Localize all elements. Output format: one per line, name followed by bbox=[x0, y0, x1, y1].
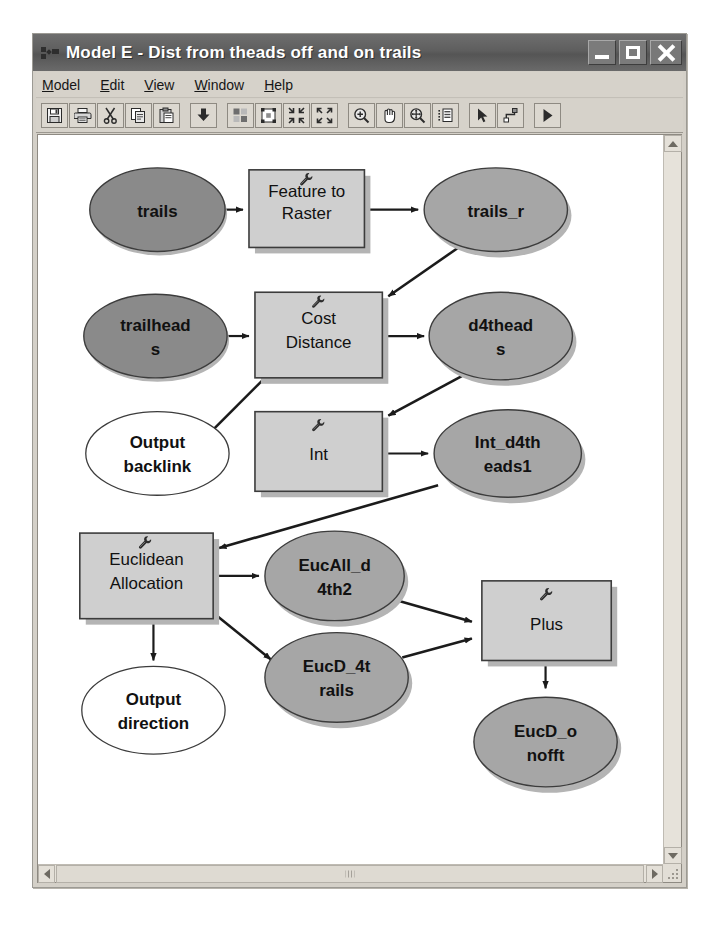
node-ellipse bbox=[82, 666, 225, 754]
node-ellipse bbox=[84, 294, 227, 378]
zoom-whole-page-button[interactable] bbox=[404, 103, 431, 128]
node-label-line-1: EucD_4t bbox=[303, 657, 371, 676]
node-plus[interactable]: Plus bbox=[482, 581, 617, 667]
node-label-line-1: d4thead bbox=[468, 316, 533, 335]
copy-icon bbox=[130, 107, 147, 124]
node-output-direction[interactable]: Output direction bbox=[82, 666, 225, 754]
cut-button[interactable] bbox=[97, 103, 124, 128]
full-extent-button[interactable] bbox=[255, 103, 282, 128]
magnifier-plus-icon bbox=[353, 107, 370, 124]
minimize-button[interactable] bbox=[588, 40, 616, 65]
node-output-backlink[interactable]: Output backlink bbox=[86, 412, 229, 496]
maximize-button[interactable] bbox=[619, 40, 647, 65]
model-diagram-icon bbox=[41, 45, 59, 61]
zoom-in-button[interactable] bbox=[348, 103, 375, 128]
node-int-d4theads1[interactable]: Int_d4th eads1 bbox=[434, 410, 585, 504]
edge-euclidean-allocation-to-eucd-4trails bbox=[213, 613, 271, 660]
node-label: Int bbox=[309, 445, 328, 464]
node-label-line-2: Distance bbox=[286, 333, 352, 352]
node-label-line-1: Output bbox=[126, 690, 182, 709]
menu-item-edit[interactable]: Edit bbox=[100, 77, 124, 93]
resize-grip[interactable] bbox=[663, 864, 681, 882]
node-ellipse bbox=[265, 531, 404, 621]
add-data-arrow-icon bbox=[195, 107, 212, 124]
scroll-left-button[interactable] bbox=[38, 865, 55, 883]
scroll-down-button[interactable] bbox=[664, 847, 682, 864]
node-label: trails bbox=[137, 202, 177, 221]
connect-nodes-icon bbox=[502, 107, 519, 124]
node-ellipse bbox=[265, 633, 408, 723]
menu-item-model[interactable]: Model bbox=[42, 77, 80, 93]
node-trails-r[interactable]: trails_r bbox=[424, 168, 571, 258]
report-button[interactable] bbox=[432, 103, 459, 128]
node-label: trails_r bbox=[468, 202, 525, 221]
close-button[interactable] bbox=[650, 40, 682, 65]
model-canvas[interactable]: trails Feature to Raster trails bbox=[38, 135, 663, 864]
node-label-line-1: Cost bbox=[301, 309, 336, 328]
auto-layout-button[interactable] bbox=[227, 103, 254, 128]
node-label-line-1: Int_d4th bbox=[475, 433, 541, 452]
menu-item-help[interactable]: Help bbox=[264, 77, 293, 93]
edge-eucd-4trails-to-plus bbox=[402, 639, 472, 658]
edge-trails-r-to-cost-distance bbox=[388, 246, 460, 296]
menu-item-window[interactable]: Window bbox=[194, 77, 244, 93]
printer-icon bbox=[74, 107, 92, 124]
connect-button[interactable] bbox=[497, 103, 524, 128]
node-cost-distance[interactable]: Cost Distance bbox=[255, 292, 388, 384]
node-ellipse bbox=[429, 292, 572, 380]
horizontal-scrollbar[interactable] bbox=[38, 864, 663, 882]
clipboard-icon bbox=[158, 107, 175, 124]
print-button[interactable] bbox=[69, 103, 96, 128]
model-canvas-area: trails Feature to Raster trails bbox=[37, 134, 682, 883]
zoom-in-fixed-button[interactable] bbox=[311, 103, 338, 128]
node-trails[interactable]: trails bbox=[90, 168, 227, 256]
node-label-line-1: EucAll_d bbox=[298, 556, 370, 575]
minimize-icon bbox=[595, 55, 609, 59]
node-label-line-2: rails bbox=[319, 681, 354, 700]
model-window: Model E - Dist from theads off and on tr… bbox=[32, 33, 687, 888]
run-button[interactable] bbox=[534, 103, 561, 128]
chevron-down-icon bbox=[668, 853, 678, 859]
scroll-up-button[interactable] bbox=[664, 135, 682, 152]
play-triangle-icon bbox=[539, 107, 556, 124]
node-label-line-2: s bbox=[496, 340, 505, 359]
copy-button[interactable] bbox=[125, 103, 152, 128]
node-label-line-1: EucD_o bbox=[514, 722, 577, 741]
chevron-right-icon bbox=[652, 869, 658, 879]
save-button[interactable] bbox=[41, 103, 68, 128]
node-label-line-1: Feature to bbox=[268, 182, 345, 201]
node-ellipse bbox=[86, 412, 229, 496]
pan-button[interactable] bbox=[376, 103, 403, 128]
menu-bar: Model Edit View Window Help bbox=[36, 72, 683, 98]
window-title: Model E - Dist from theads off and on tr… bbox=[66, 43, 588, 63]
node-eucd-4trails[interactable]: EucD_4t rails bbox=[265, 633, 412, 729]
arrows-out-icon bbox=[316, 107, 333, 124]
node-label-line-2: 4th2 bbox=[317, 580, 352, 599]
node-eucall-d4th2[interactable]: EucAll_d 4th2 bbox=[265, 531, 408, 627]
maximize-icon bbox=[626, 46, 640, 59]
node-trailheads[interactable]: trailhead s bbox=[84, 294, 229, 382]
node-int[interactable]: Int bbox=[255, 412, 388, 498]
node-eucd-onofft[interactable]: EucD_o nofft bbox=[474, 697, 621, 793]
node-label-line-2: direction bbox=[118, 714, 189, 733]
node-label-line-2: eads1 bbox=[484, 457, 532, 476]
paste-button[interactable] bbox=[153, 103, 180, 128]
select-button[interactable] bbox=[469, 103, 496, 128]
zoom-out-fixed-button[interactable] bbox=[283, 103, 310, 128]
node-ellipse bbox=[474, 697, 617, 787]
scroll-right-button[interactable] bbox=[646, 865, 663, 883]
menu-item-view[interactable]: View bbox=[144, 77, 174, 93]
window-controls bbox=[588, 40, 682, 65]
add-data-button[interactable] bbox=[190, 103, 217, 128]
node-label-line-2: s bbox=[151, 340, 160, 359]
toolbar bbox=[36, 99, 683, 133]
horizontal-scroll-thumb[interactable] bbox=[56, 865, 644, 883]
node-feature-to-raster[interactable]: Feature to Raster bbox=[249, 170, 370, 254]
edge-d4theads-to-int bbox=[388, 374, 466, 416]
node-euclidean-allocation[interactable]: Euclidean Allocation bbox=[80, 533, 219, 625]
node-d4theads[interactable]: d4thead s bbox=[429, 292, 576, 386]
node-label-line-2: nofft bbox=[527, 746, 565, 765]
vertical-scrollbar[interactable] bbox=[663, 135, 681, 864]
hand-icon bbox=[381, 107, 398, 124]
scroll-grip-icon bbox=[346, 871, 355, 878]
